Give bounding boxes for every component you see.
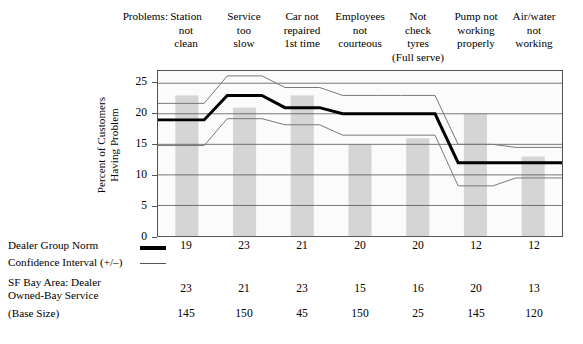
norm-value-0: 19 xyxy=(157,239,215,252)
bar-2 xyxy=(291,95,314,236)
norm-value-6: 12 xyxy=(505,239,563,252)
plot-area xyxy=(157,70,563,237)
base-size-value-3: 150 xyxy=(331,307,389,320)
y-tick-label-25: 25 xyxy=(117,76,147,88)
legend-base-label: (Base Size) xyxy=(8,307,59,320)
legend-ci-label: Confidence Interval (+/–) xyxy=(8,256,122,269)
base-size-value-5: 145 xyxy=(447,307,505,320)
bay-value-5: 20 xyxy=(447,282,505,295)
legend-bay-label: SF Bay Area: Dealer Owned-Bay Service xyxy=(8,276,101,303)
y-tick-label-15: 15 xyxy=(117,138,147,150)
base-size-value-1: 150 xyxy=(215,307,273,320)
base-size-value-4: 25 xyxy=(389,307,447,320)
bay-value-6: 13 xyxy=(505,282,563,295)
bar-3 xyxy=(348,144,371,236)
chart-canvas xyxy=(158,71,562,236)
confidence-interval-upper-line xyxy=(158,76,562,148)
y-tick-label-20: 20 xyxy=(117,107,147,119)
bay-value-4: 16 xyxy=(389,282,447,295)
y-tick-label-10: 10 xyxy=(117,169,147,181)
data-table: Dealer Group Norm Confidence Interval (+… xyxy=(0,237,583,344)
norm-value-5: 12 xyxy=(447,239,505,252)
base-size-value-2: 45 xyxy=(273,307,331,320)
y-axis-title-wrap: Percent of Customers Having Problem xyxy=(100,108,116,198)
base-size-value-6: 120 xyxy=(505,307,563,320)
base-size-value-0: 145 xyxy=(157,307,215,320)
category-label-6: Air/water not working xyxy=(498,10,570,51)
bar-6 xyxy=(522,157,545,236)
ci-line-swatch xyxy=(140,263,166,264)
category-header-row: Problems: Station not clean Service too … xyxy=(0,8,583,66)
bay-value-3: 15 xyxy=(331,282,389,295)
norm-value-1: 23 xyxy=(215,239,273,252)
bar-0 xyxy=(175,95,198,236)
norm-value-3: 20 xyxy=(331,239,389,252)
bar-1 xyxy=(233,108,256,236)
chart-page: Problems: Station not clean Service too … xyxy=(0,0,583,344)
bay-value-0: 23 xyxy=(157,282,215,295)
legend-norm-label: Dealer Group Norm xyxy=(8,239,98,252)
norm-value-2: 21 xyxy=(273,239,331,252)
bay-value-1: 21 xyxy=(215,282,273,295)
norm-value-4: 20 xyxy=(389,239,447,252)
bay-value-2: 23 xyxy=(273,282,331,295)
bar-4 xyxy=(406,138,429,236)
y-tick-label-5: 5 xyxy=(117,200,147,212)
